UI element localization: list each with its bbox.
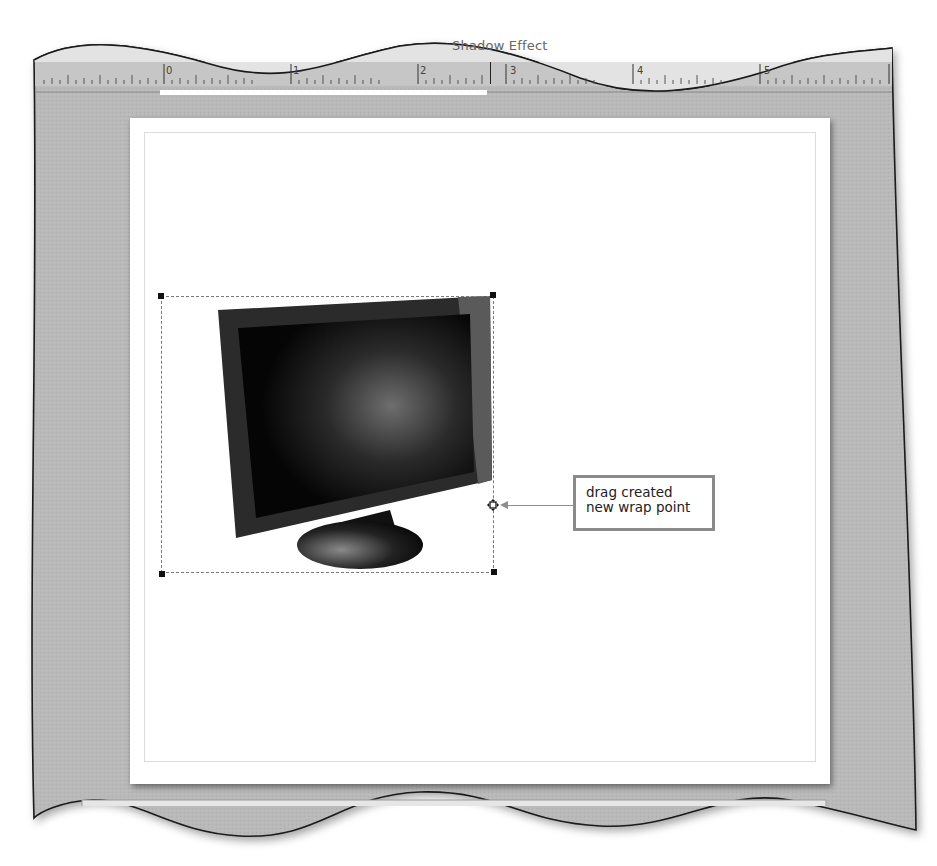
- ruler-position-marker: [490, 62, 491, 84]
- callout-line-1: drag created: [586, 485, 712, 500]
- image-selection-box: [161, 296, 494, 573]
- ruler-label-4: 4: [637, 65, 643, 76]
- ruler-label-2: 2: [420, 65, 426, 76]
- callout-line-2: new wrap point: [586, 500, 712, 515]
- resize-handle-bottom-right[interactable]: [491, 569, 497, 575]
- callout-connector-line: [505, 505, 573, 506]
- resize-handle-top-right[interactable]: [490, 292, 496, 298]
- ruler-label-1: 1: [293, 65, 299, 76]
- ruler-label-5: 5: [764, 65, 770, 76]
- ruler-text-area: [160, 90, 487, 95]
- resize-handle-bottom-left[interactable]: [159, 571, 165, 577]
- wrap-point-move-icon[interactable]: [487, 499, 499, 511]
- ruler-label-0: 0: [166, 65, 172, 76]
- callout-box: drag created new wrap point: [573, 475, 715, 531]
- window-title: Shadow Effect: [452, 38, 548, 53]
- ruler-label-3: 3: [510, 65, 516, 76]
- horizontal-ruler[interactable]: 0 1 2 3 4 5: [36, 62, 891, 88]
- resize-handle-top-left[interactable]: [158, 293, 164, 299]
